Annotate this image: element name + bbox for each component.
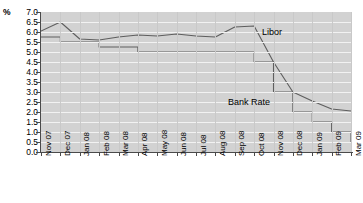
x-axis-tick (177, 152, 178, 156)
x-axis-tick (41, 152, 42, 156)
y-axis-tick (36, 52, 41, 53)
x-axis-tick-label: Mar 09 (355, 131, 363, 156)
x-axis-tick-label: Apr 08 (141, 132, 149, 156)
x-axis-tick (215, 152, 216, 156)
x-axis-tick (157, 152, 158, 156)
x-axis-tick-label: Aug 08 (219, 131, 227, 156)
x-axis-tick (235, 152, 236, 156)
y-axis-tick-label: 6.5 (0, 18, 38, 27)
x-axis-tick (138, 152, 139, 156)
x-axis-tick-label: Dec 07 (64, 131, 72, 156)
x-axis-tick (80, 152, 81, 156)
x-axis-tick-label: Jul 08 (200, 135, 208, 156)
x-axis-tick-label: May 08 (161, 130, 169, 156)
y-axis-labels: 7.06.56.05.55.04.54.03.53.02.52.01.51.00… (0, 0, 38, 203)
gridline-vertical (351, 12, 352, 152)
gridline-vertical (254, 12, 255, 152)
gridline-vertical (119, 12, 120, 152)
y-axis-tick (36, 132, 41, 133)
y-axis-tick (36, 82, 41, 83)
x-axis-tick-label: Nov 07 (45, 131, 53, 156)
x-axis-tick-label: Jan 09 (316, 132, 324, 156)
gridline-vertical (157, 12, 158, 152)
x-axis-tick (254, 152, 255, 156)
y-axis-tick-label: 5.0 (0, 48, 38, 57)
y-axis-tick-label: 0.0 (0, 148, 38, 157)
y-axis-tick-label: 1.0 (0, 128, 38, 137)
x-axis-tick (196, 152, 197, 156)
x-axis-tick-label: Dec 08 (296, 131, 304, 156)
annotation-bank-rate: Bank Rate (228, 98, 270, 107)
gridline-vertical (215, 12, 216, 152)
x-axis-tick (99, 152, 100, 156)
gridline-vertical (196, 12, 197, 152)
gridline-vertical (99, 12, 100, 152)
y-axis-tick-label: 4.5 (0, 58, 38, 67)
x-axis-tick (312, 152, 313, 156)
gridline-vertical (177, 12, 178, 152)
gridline-vertical (80, 12, 81, 152)
gridline-vertical (235, 12, 236, 152)
y-axis-tick-label: 5.5 (0, 38, 38, 47)
x-axis-tick (293, 152, 294, 156)
y-axis-tick (36, 142, 41, 143)
x-axis-tick-label: Feb 09 (335, 131, 343, 156)
y-axis-tick-label: 4.0 (0, 68, 38, 77)
x-axis-tick-label: Mar 08 (122, 131, 130, 156)
y-axis-tick (36, 62, 41, 63)
x-axis-tick (351, 152, 352, 156)
y-axis-tick-label: 2.5 (0, 98, 38, 107)
y-axis-tick-label: 7.0 (0, 8, 38, 17)
x-axis-tick-label: Sep 08 (238, 131, 246, 156)
x-axis-tick (60, 152, 61, 156)
y-axis-tick (36, 102, 41, 103)
y-axis-tick-label: 6.0 (0, 28, 38, 37)
x-axis-tick (332, 152, 333, 156)
gridline-vertical (138, 12, 139, 152)
y-axis-tick (36, 22, 41, 23)
y-axis-tick (36, 42, 41, 43)
x-axis-tick-label: Oct 08 (258, 132, 266, 156)
y-axis-tick (36, 72, 41, 73)
y-axis-tick (36, 92, 41, 93)
y-axis-tick (36, 122, 41, 123)
x-axis-tick-label: Jun 08 (180, 132, 188, 156)
annotation-libor: Libor (262, 28, 282, 37)
y-axis-tick (36, 12, 41, 13)
y-axis-tick-label: 0.5 (0, 138, 38, 147)
y-axis-tick-label: 3.0 (0, 88, 38, 97)
x-axis-tick (274, 152, 275, 156)
y-axis-tick-label: 1.5 (0, 118, 38, 127)
x-axis-tick-label: Nov 08 (277, 131, 285, 156)
y-axis-tick-label: 3.5 (0, 78, 38, 87)
gridline-vertical (312, 12, 313, 152)
x-axis-tick (119, 152, 120, 156)
y-axis-tick-label: 2.0 (0, 108, 38, 117)
x-axis-tick-label: Feb 08 (103, 131, 111, 156)
gridline-vertical (332, 12, 333, 152)
gridline-vertical (60, 12, 61, 152)
y-axis-tick (36, 32, 41, 33)
x-axis-tick-label: Jan 08 (83, 132, 91, 156)
y-axis-tick (36, 112, 41, 113)
gridline-vertical (293, 12, 294, 152)
